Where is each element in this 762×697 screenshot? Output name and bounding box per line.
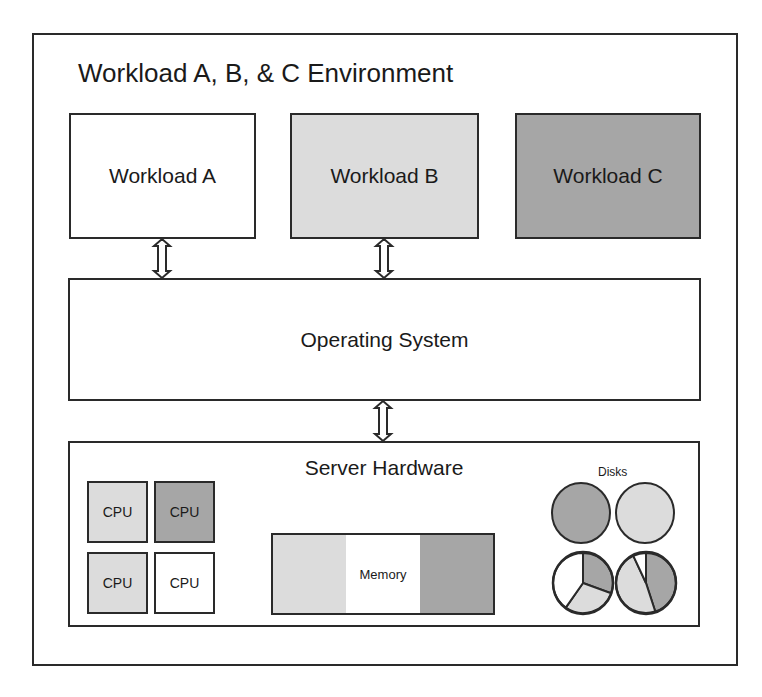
os-hardware-arrow-icon [375, 401, 391, 441]
diagram-graphics [0, 0, 762, 697]
disk-icon [616, 483, 674, 543]
disk-icon [616, 552, 676, 614]
disk-icon [553, 552, 613, 614]
workload-b-os-arrow-icon [376, 239, 392, 278]
disk-icon [552, 483, 610, 543]
workload-a-os-arrow-icon [154, 239, 170, 278]
